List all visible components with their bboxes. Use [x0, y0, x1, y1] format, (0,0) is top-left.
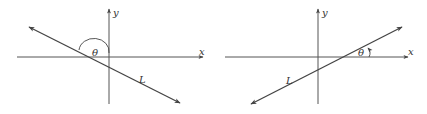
line-label: L [138, 74, 146, 85]
left-diagram: x y θ L [17, 7, 205, 104]
y-axis-label: y [112, 7, 119, 18]
angle-label: θ [358, 47, 364, 58]
y-axis-label: y [321, 7, 328, 18]
right-diagram: x y θ L [225, 7, 414, 104]
line-label: L [285, 75, 293, 86]
x-axis-label: x [408, 46, 414, 57]
line-l [251, 27, 402, 104]
line-l [29, 27, 180, 103]
angle-label: θ [92, 47, 98, 58]
diagram-canvas: x y θ L x y θ L [0, 0, 427, 114]
x-axis-label: x [199, 46, 205, 57]
angle-arc [368, 48, 370, 57]
